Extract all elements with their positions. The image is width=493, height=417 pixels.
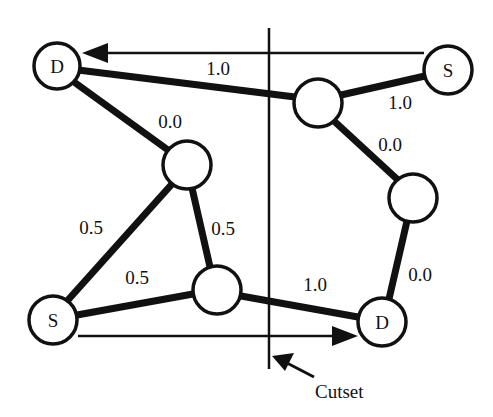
edge-n3-d2 bbox=[389, 221, 407, 299]
demand-arrow-top bbox=[82, 43, 424, 63]
node-intermediate-4 bbox=[193, 266, 241, 314]
node-d-bottom-right: D bbox=[358, 298, 406, 346]
node-intermediate-3 bbox=[389, 174, 437, 222]
edge-weight-n2-n3: 0.0 bbox=[378, 134, 402, 155]
cutset-pointer bbox=[272, 353, 314, 377]
network-cutset-diagram: D S S D 1.0 0.0 1.0 0.0 0.5 0.5 0.5 1.0 … bbox=[0, 0, 493, 417]
node-d-top-left: D bbox=[34, 43, 80, 89]
edge-n4-d2 bbox=[241, 296, 358, 317]
node-intermediate-2 bbox=[294, 79, 342, 127]
cutset-arrowhead-icon bbox=[272, 353, 294, 371]
demand-arrow-bottom bbox=[78, 326, 358, 346]
edge-d1-n2 bbox=[78, 70, 295, 97]
cutset-label: Cutset bbox=[315, 381, 364, 402]
node-label-d-bottom: D bbox=[375, 312, 389, 333]
edge-n2-s1 bbox=[341, 76, 425, 95]
edge-weight-s2-n4: 0.5 bbox=[125, 267, 149, 288]
edge-weight-d1-n1: 0.0 bbox=[158, 111, 182, 132]
edge-weight-d1-n2: 1.0 bbox=[206, 58, 230, 79]
arrowhead-right-icon bbox=[332, 326, 358, 346]
edge-n1-s2 bbox=[68, 184, 172, 300]
node-label-d-top: D bbox=[50, 56, 64, 77]
edge-weight-n2-s1: 1.0 bbox=[388, 92, 412, 113]
edge-weight-n1-n4: 0.5 bbox=[211, 218, 235, 239]
edge-s2-n4 bbox=[77, 294, 193, 315]
edge-weight-n3-d2: 0.0 bbox=[408, 264, 432, 285]
node-s-top-right: S bbox=[424, 46, 472, 94]
node-intermediate-1 bbox=[163, 141, 211, 189]
edge-d1-n1 bbox=[74, 82, 168, 150]
node-label-s-bottom: S bbox=[48, 310, 59, 331]
edges bbox=[68, 70, 425, 317]
node-label-s-top: S bbox=[443, 60, 454, 81]
edge-weight-n1-s2: 0.5 bbox=[79, 217, 103, 238]
edge-weight-n4-d2: 1.0 bbox=[303, 274, 327, 295]
node-s-bottom-left: S bbox=[29, 296, 77, 344]
edge-n1-n4 bbox=[192, 188, 210, 267]
arrowhead-left-icon bbox=[82, 43, 108, 63]
